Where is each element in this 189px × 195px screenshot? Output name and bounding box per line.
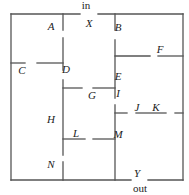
node-label-d: D <box>61 63 70 75</box>
node-label-k: K <box>151 101 160 113</box>
node-label-y: Y <box>134 167 142 179</box>
node-label-c: C <box>18 64 26 76</box>
entrance-label: in <box>82 0 91 11</box>
node-label-j: J <box>135 101 141 113</box>
exit-label: out <box>133 182 147 194</box>
node-label-n: N <box>46 158 55 170</box>
node-label-e: E <box>114 70 122 82</box>
node-label-b: B <box>115 21 122 33</box>
maze-diagram: in out XABFCDEGIJKHLMNY <box>0 0 189 195</box>
node-label-f: F <box>156 43 164 55</box>
node-label-g: G <box>88 89 96 101</box>
node-label-l: L <box>72 127 79 139</box>
node-label-a: A <box>47 20 55 32</box>
node-label-x: X <box>85 17 94 29</box>
node-label-h: H <box>46 113 56 125</box>
node-label-m: M <box>112 128 123 140</box>
node-label-i: I <box>115 87 121 99</box>
maze-walls <box>11 14 183 180</box>
node-labels: XABFCDEGIJKHLMNY <box>18 17 163 179</box>
